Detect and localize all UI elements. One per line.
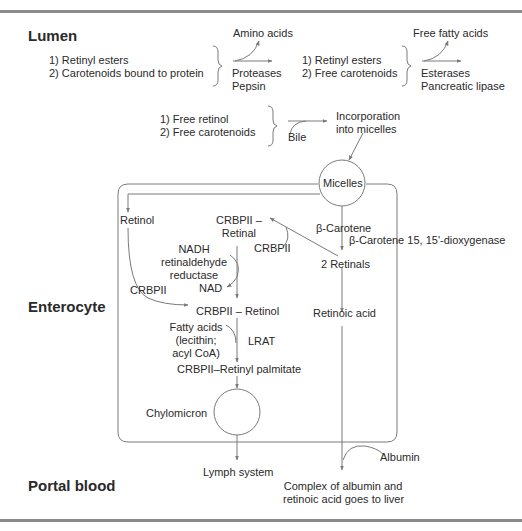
- brace-2: [402, 46, 411, 86]
- group2-enzymes: Esterases Pancreatic lipase: [421, 67, 505, 93]
- nadh-reductase-label: NADH retinaldehyde reductase: [154, 243, 234, 282]
- fatty-acids-label: Fatty acids (lecithin; acyl CoA): [168, 321, 224, 360]
- enzyme-label: Pepsin: [232, 80, 282, 93]
- nadh-line: retinaldehyde: [154, 256, 234, 269]
- lumen-group1-list: 1) Retinyl esters 2) Carotenoids bound t…: [49, 54, 204, 80]
- lumen-group3-item: 1) Free retinol: [160, 113, 255, 126]
- lrat-label: LRAT: [248, 335, 275, 348]
- nad-label: NAD: [199, 282, 222, 295]
- albumin-label: Albumin: [380, 451, 420, 464]
- nadh-line: reductase: [154, 269, 234, 282]
- micelles-label: Micelles: [323, 177, 363, 190]
- lymph-system-label: Lymph system: [203, 466, 274, 479]
- complex-label: Complex of albumin and retinoic acid goe…: [283, 480, 403, 506]
- chylomicron-label: Chylomicron: [146, 407, 207, 420]
- chylomicron-circle: [214, 389, 260, 435]
- complex-line: retinoic acid goes to liver: [283, 493, 403, 506]
- two-retinals-label: 2 Retinals: [321, 258, 370, 271]
- lumen-group2-list: 1) Retinyl esters 2) Free carotenoids: [302, 54, 397, 80]
- crbpii-retinal-label: CRBPII – Retinal: [216, 214, 262, 240]
- lumen-group3-item: 2) Free carotenoids: [160, 126, 255, 139]
- amino-acids-label: Amino acids: [233, 27, 293, 40]
- brace-1: [213, 46, 222, 86]
- crbpii-retinal-line: CRBPII –: [216, 214, 262, 227]
- retinol-label: Retinol: [120, 214, 154, 227]
- enzyme-label: Proteases: [232, 67, 282, 80]
- dioxygenase-label: β-Carotene 15, 15'-dioxygenase: [349, 234, 505, 247]
- fatty-acids-line: (lecithin;: [168, 334, 224, 347]
- fatty-acids-line: Fatty acids: [168, 321, 224, 334]
- incorporation-label: Incorporation into micelles: [336, 110, 400, 136]
- enzyme-label: Pancreatic lipase: [421, 80, 505, 93]
- vitamin-a-absorption-diagram: Lumen Enterocyte Portal blood 1) Retinyl…: [0, 0, 522, 531]
- lumen-group1-item: 2) Carotenoids bound to protein: [49, 67, 204, 80]
- retinoic-acid-label: Retinoic acid: [313, 307, 376, 320]
- crbpii-mid-label: CRBPII: [254, 242, 291, 255]
- nadh-line: NADH: [154, 243, 234, 256]
- crbpii-palmitate-label: CRBPII–Retinyl palmitate: [177, 363, 301, 376]
- lumen-group1-item: 1) Retinyl esters: [49, 54, 204, 67]
- lumen-group3-list: 1) Free retinol 2) Free carotenoids: [160, 113, 255, 139]
- incorporation-line: into micelles: [336, 123, 400, 136]
- lumen-group2-item: 1) Retinyl esters: [302, 54, 397, 67]
- complex-line: Complex of albumin and: [283, 480, 403, 493]
- region-label-portal-blood: Portal blood: [28, 477, 116, 494]
- crbpii-retinal-line: Retinal: [216, 227, 262, 240]
- region-label-lumen: Lumen: [28, 27, 77, 44]
- brace-3: [268, 106, 277, 146]
- group1-enzymes: Proteases Pepsin: [232, 67, 282, 93]
- crbpii-retinol-label: CRBPII – Retinol: [196, 305, 279, 318]
- crbpii-left-label: CRBPII: [130, 284, 167, 297]
- incorporation-line: Incorporation: [336, 110, 400, 123]
- enzyme-label: Esterases: [421, 67, 505, 80]
- region-label-enterocyte: Enterocyte: [28, 298, 106, 315]
- lumen-group2-item: 2) Free carotenoids: [302, 67, 397, 80]
- fatty-acids-line: acyl CoA): [168, 347, 224, 360]
- free-fatty-acids-label: Free fatty acids: [413, 27, 488, 40]
- bile-label: Bile: [288, 131, 306, 144]
